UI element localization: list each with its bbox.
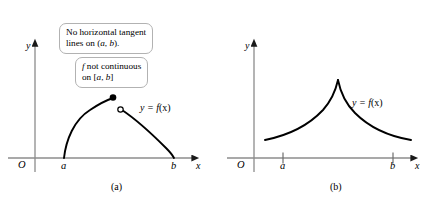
callout-line-2: on [a, b] — [82, 72, 141, 83]
callout-line2-post: ] — [110, 72, 113, 82]
curve-equation-arg: (x) — [159, 102, 171, 113]
tick-label-b: b — [171, 161, 176, 172]
callout-no-horizontal-tangent-a: No horizontal tangent lines on (a, b). — [59, 23, 153, 54]
tick-label-b: b — [390, 161, 395, 172]
panel-a: y x O a b y = f(x) No horizontal tangent… — [0, 0, 219, 204]
callout-line2-post: ). — [114, 38, 119, 48]
tick-label-a: a — [280, 161, 285, 172]
curve-equation-label: y = f(x) — [352, 98, 383, 108]
callout-line-1: No horizontal tangent — [66, 27, 146, 38]
curve-equation-label: y = f(x) — [140, 103, 171, 113]
callout-line-2: lines on (a, b). — [66, 38, 146, 49]
curve-right-branch — [338, 80, 411, 140]
origin-label: O — [237, 160, 245, 171]
x-axis-label: x — [415, 161, 419, 171]
curve-left-branch — [265, 80, 338, 140]
callout-line2-pre: lines on ( — [66, 38, 100, 48]
panel-caption-a: (a) — [111, 182, 122, 192]
panel-b: y x O a b y = f(x) No horizontal tangent… — [219, 0, 438, 204]
curve-equation-lhs: y = f — [140, 102, 159, 113]
open-endpoint-circle — [118, 107, 123, 112]
origin-label: O — [18, 160, 26, 171]
callout-not-continuous: f not continuous on [a, b] — [75, 57, 148, 88]
y-axis-label: y — [245, 41, 249, 51]
tick-label-a: a — [61, 161, 66, 172]
x-axis-label: x — [196, 161, 200, 171]
y-axis-label: y — [26, 41, 30, 51]
callout-line-1: f not continuous — [82, 61, 141, 72]
panel-b-plot — [219, 0, 438, 204]
filled-endpoint-dot — [110, 94, 117, 101]
curve-right-branch — [122, 110, 174, 158]
curve-equation-arg: (x) — [371, 97, 383, 108]
panel-caption-b: (b) — [330, 182, 342, 192]
figure-container: y x O a b y = f(x) No horizontal tangent… — [0, 0, 438, 204]
curve-left-branch — [64, 98, 113, 158]
callout-line1-rest: not continuous — [85, 61, 142, 71]
curve-equation-lhs: y = f — [352, 97, 371, 108]
callout-line2-pre: on [ — [82, 72, 97, 82]
